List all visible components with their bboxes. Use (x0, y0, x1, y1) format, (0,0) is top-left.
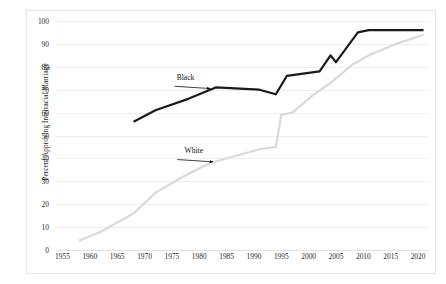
y-tick-label-90: 90 (42, 39, 49, 48)
annotation-label-white: White (184, 146, 203, 155)
x-tick-label-1965: 1965 (110, 252, 125, 261)
y-tick-label-70: 70 (42, 85, 49, 94)
x-tick-label-2000: 2000 (301, 252, 316, 261)
y-tick-label-10: 10 (42, 223, 49, 232)
y-tick-label-80: 80 (42, 62, 49, 71)
x-tick-label-2020: 2020 (411, 252, 426, 261)
y-tick-label-0: 0 (45, 246, 49, 255)
x-tick-label-1970: 1970 (137, 252, 152, 261)
x-tick-label-2005: 2005 (329, 252, 344, 261)
series-lines (57, 21, 429, 250)
y-axis-tick-labels: 0102030405060708090100 (0, 21, 55, 250)
y-tick-label-60: 60 (42, 108, 49, 117)
gridline-0 (57, 250, 429, 251)
y-tick-label-30: 30 (42, 177, 49, 186)
interracial-marriage-approval-chart: Percent Approving Interracial Marriage 0… (0, 0, 446, 284)
x-tick-label-1975: 1975 (164, 252, 179, 261)
annotation-arrow-white (177, 160, 213, 162)
x-axis-tick-labels: 1955196019651970197519801985199019952000… (57, 252, 429, 268)
x-tick-label-1985: 1985 (219, 252, 234, 261)
y-tick-label-40: 40 (42, 154, 49, 163)
plot-area: BlackWhite (57, 21, 429, 250)
y-tick-label-100: 100 (38, 17, 49, 26)
annotation-label-black: Black (177, 73, 195, 82)
annotation-arrow-black (175, 86, 211, 88)
x-tick-label-1995: 1995 (274, 252, 289, 261)
x-tick-label-2015: 2015 (383, 252, 398, 261)
y-tick-label-20: 20 (42, 200, 49, 209)
y-tick-label-50: 50 (42, 131, 49, 140)
x-tick-label-1990: 1990 (247, 252, 262, 261)
x-tick-label-1955: 1955 (55, 252, 70, 261)
x-tick-label-1960: 1960 (82, 252, 97, 261)
x-tick-label-2010: 2010 (356, 252, 371, 261)
series-line-white (79, 35, 424, 241)
x-tick-label-1980: 1980 (192, 252, 207, 261)
